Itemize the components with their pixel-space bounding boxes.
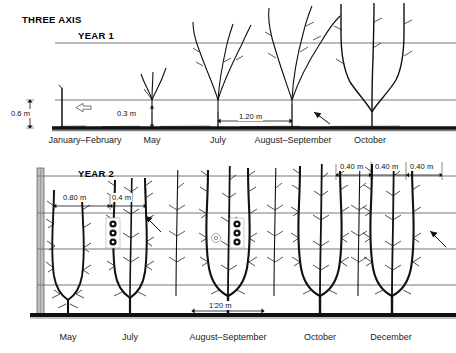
year1-stage-august-september xyxy=(265,6,340,128)
axis-right xyxy=(372,3,404,112)
bud-arrow-icon xyxy=(76,103,91,111)
shoot-right xyxy=(152,68,166,100)
axis-mid xyxy=(320,164,322,296)
year2-month-october: October xyxy=(290,332,350,342)
year2-tree-december xyxy=(363,162,421,315)
tie-clip-left-icon xyxy=(106,218,120,248)
dim-label-0-6m: 0.6 m xyxy=(10,109,31,118)
year2-ground xyxy=(30,315,456,318)
year1-wires xyxy=(55,43,456,100)
year2-panel xyxy=(30,162,456,318)
year1-stage-may xyxy=(141,68,166,128)
year2-month-july: July xyxy=(110,332,150,342)
dim-label-0-4m: 0.4 m xyxy=(111,193,132,202)
three-axis-training-figure: THREE AXIS YEAR 1 YEAR 2 0.6 m 0.3 m 1.2… xyxy=(0,0,456,353)
dim-label-0-40m-1: 0.40 m xyxy=(339,162,364,171)
year1-month-july: July xyxy=(198,135,238,145)
shoot-left xyxy=(141,74,152,100)
year2-tree-august-september xyxy=(199,166,257,315)
axis-left xyxy=(341,4,372,112)
cut-tip xyxy=(59,85,63,88)
year1-stage-january-february xyxy=(59,85,63,128)
axis-mid xyxy=(392,162,394,296)
shoot-mid xyxy=(292,6,312,100)
dim-label-0-40m-3: 0.40 m xyxy=(409,162,434,171)
v-frame-r xyxy=(320,165,342,296)
shoot-mid xyxy=(218,24,233,100)
year1-title: YEAR 1 xyxy=(78,30,114,41)
year2-month-may: May xyxy=(48,332,88,342)
year2-title: YEAR 2 xyxy=(78,168,114,179)
year2-tree-may xyxy=(46,190,91,315)
tie-clip-right-icon xyxy=(230,218,244,248)
shoot-mid xyxy=(152,72,153,100)
v-frame-l xyxy=(206,170,228,296)
year1-month-august-september: August–September xyxy=(233,135,353,145)
year1-ground xyxy=(52,126,456,131)
graft-arrow-icon xyxy=(314,112,330,124)
year2-month-august-september: August–September xyxy=(168,332,288,342)
pruning-arrow-right-icon xyxy=(430,231,446,247)
v-frame-r xyxy=(130,178,147,298)
axis-mid xyxy=(228,166,230,296)
dim-label-1-20m-year1: 1.20 m xyxy=(238,112,263,121)
dim-label-1-20m-year2: 1'20 m xyxy=(208,301,233,310)
v-frame-l xyxy=(298,166,320,296)
v-frame-r xyxy=(392,163,414,296)
dim-label-0-80m: 0.80 m xyxy=(62,193,87,202)
year2-month-december: December xyxy=(357,332,425,342)
pruning-circle-icon xyxy=(211,233,220,242)
laterals xyxy=(265,22,321,58)
year2-tree-october xyxy=(291,164,349,315)
year1-month-january-february: January–February xyxy=(20,135,150,145)
year1-stage-october xyxy=(334,3,412,128)
dim-label-0-3m: 0.3 m xyxy=(116,109,137,118)
page-title: THREE AXIS xyxy=(22,14,82,25)
shoot-left xyxy=(269,8,292,100)
v-frame-l xyxy=(370,164,392,296)
shoot-right xyxy=(292,16,340,100)
year1-month-october: October xyxy=(340,135,400,145)
year1-month-may: May xyxy=(132,135,172,145)
year2-end-post xyxy=(37,168,44,315)
dim-label-0-40m-2: 0.40 m xyxy=(374,162,399,171)
shoot-left xyxy=(193,22,218,100)
axis-mid xyxy=(372,3,374,112)
